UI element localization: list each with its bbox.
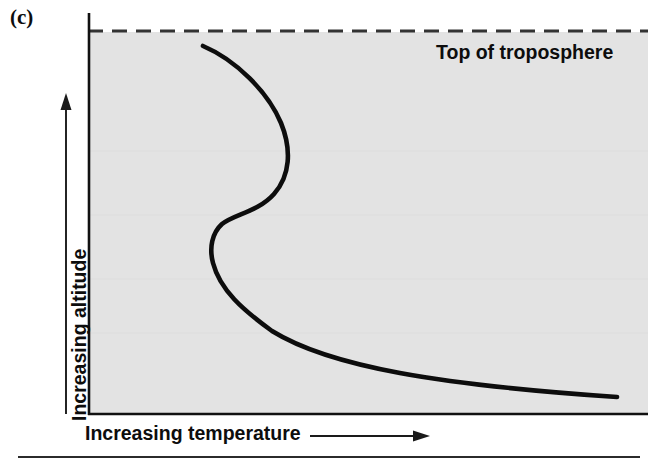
x-axis-arrow (310, 431, 430, 442)
figure-panel-c: (c) Top of tro (0, 0, 648, 467)
plot-background (88, 32, 648, 414)
x-axis-label: Increasing temperature (85, 424, 301, 444)
y-axis-label: Increasing altitude (70, 191, 90, 421)
top-of-troposphere-annotation: Top of troposphere (436, 43, 613, 63)
plot-canvas (0, 0, 648, 467)
